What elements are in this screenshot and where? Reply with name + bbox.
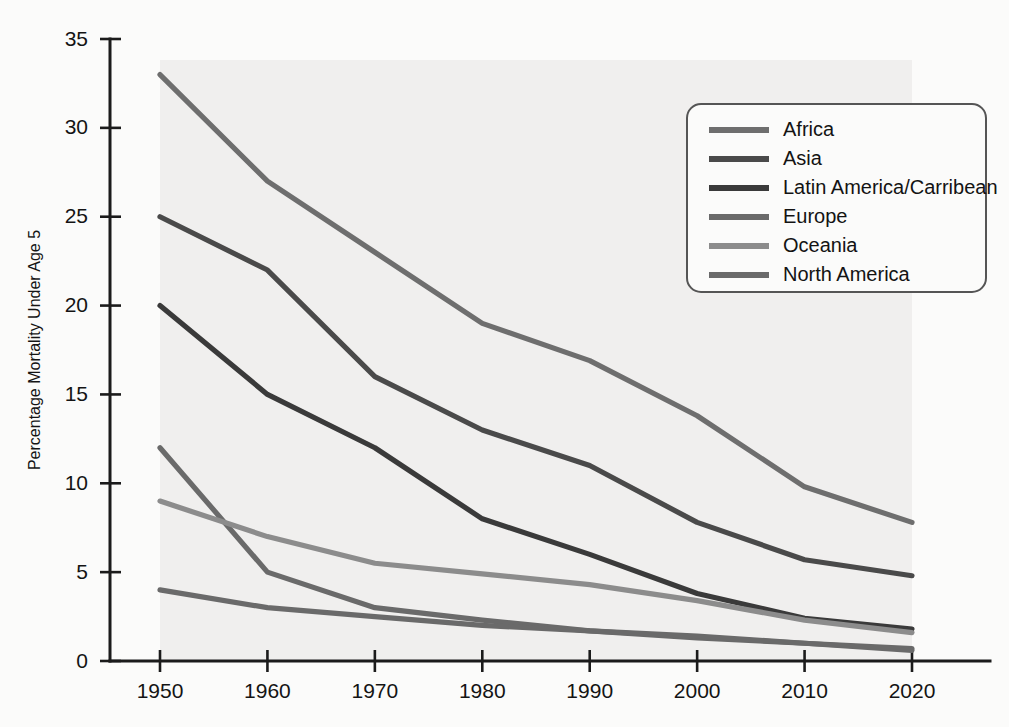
y-tick-label: 15 [65,382,88,405]
x-tick-label: 1960 [244,679,291,702]
y-tick-label: 0 [76,649,88,672]
line-chart: 05101520253035 1950196019701980199020002… [0,0,1009,727]
legend: AfricaAsiaLatin America/CarribeanEuropeO… [687,104,998,292]
y-tick-label: 20 [65,293,88,316]
y-tick-label: 35 [65,27,88,50]
x-tick-label: 1980 [459,679,506,702]
x-tick-label: 1990 [566,679,613,702]
y-tick-label: 25 [65,204,88,227]
x-tick-label: 2020 [889,679,936,702]
y-tick-label: 10 [65,471,88,494]
x-tick-label: 1950 [137,679,184,702]
x-tick-label: 2000 [674,679,721,702]
legend-label: Europe [783,205,848,227]
y-tick-label: 5 [76,560,88,583]
chart-page: 05101520253035 1950196019701980199020002… [0,0,1009,727]
legend-label: Oceania [783,234,858,256]
legend-label: North America [783,263,911,285]
y-tick-label: 30 [65,115,88,138]
legend-label: Africa [783,118,835,140]
legend-label: Latin America/Carribean [783,176,998,198]
y-axis-title: Percentage Mortality Under Age 5 [26,230,43,470]
y-axis-ticks: 05101520253035 [65,27,121,672]
legend-label: Asia [783,147,823,169]
x-tick-label: 2010 [781,679,828,702]
x-tick-label: 1970 [351,679,398,702]
